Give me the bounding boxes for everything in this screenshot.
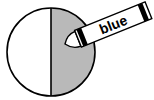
fraction-circle — [7, 8, 95, 96]
fraction-diagram: blue — [0, 0, 154, 100]
shaded-half — [51, 8, 95, 96]
